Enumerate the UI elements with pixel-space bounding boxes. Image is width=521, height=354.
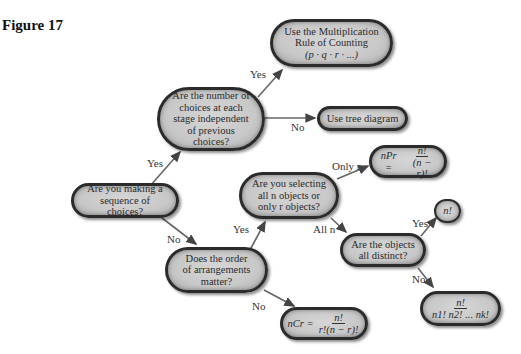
edge-label-distinct-no: No — [412, 273, 425, 285]
start-text: Are you making a sequence of choices? — [74, 183, 176, 218]
selecting-line3: only r objects? — [252, 201, 326, 213]
node-objects-distinct: Are the objects all distinct? — [340, 233, 426, 267]
edge-label-independent-no: No — [291, 121, 304, 133]
edge-label-order-yes: Yes — [233, 223, 249, 235]
multiplication-formula: (p · q · r · ...) — [284, 49, 379, 61]
permutation-numerator: n! — [416, 145, 429, 157]
node-nondistinct-formula: n! n1! n2! ... nk! — [420, 291, 501, 326]
permutation-denominator: (n − r)! — [404, 157, 440, 179]
node-combination-formula: nCr = n! r!(n − r)! — [280, 307, 368, 340]
permutation-lhs: nPr = — [376, 150, 401, 173]
edge-label-distinct-yes: Yes — [412, 217, 428, 229]
node-n-factorial: n! — [434, 199, 461, 223]
combination-lhs: nCr = — [288, 318, 314, 330]
arrow-order-no — [264, 290, 294, 306]
node-permutation-formula: nPr = n! (n − r)! — [369, 145, 447, 178]
combination-denominator: r!(n − r)! — [317, 324, 361, 335]
nondistinct-denominator: n1! n2! ... nk! — [430, 309, 491, 320]
edge-label-start-no: No — [167, 233, 180, 245]
combination-numerator: n! — [332, 312, 345, 324]
edge-label-order-no: No — [252, 300, 265, 312]
node-independent-choices: Are the number of choices at each stage … — [157, 87, 265, 151]
distinct-text: Are the objects all distinct? — [343, 239, 423, 262]
node-selecting-objects: Are you selecting all n objects or only … — [239, 172, 339, 219]
arrow-order-yes — [250, 222, 265, 250]
node-sequence-of-choices: Are you making a sequence of choices? — [71, 183, 179, 218]
multiplication-line2: Rule of Counting — [284, 37, 379, 49]
multiplication-line1: Use the Multiplication — [284, 26, 379, 38]
nondistinct-numerator: n! — [454, 297, 467, 309]
order-text: Does the order of arrangements matter? — [168, 253, 265, 288]
independent-text: Are the number of choices at each stage … — [160, 90, 262, 148]
edge-label-independent-yes: Yes — [250, 68, 266, 80]
edge-label-start-yes: Yes — [147, 157, 163, 169]
selecting-line2: all n objects or — [252, 190, 326, 202]
node-multiplication-rule: Use the Multiplication Rule of Counting … — [270, 19, 393, 67]
selecting-line1: Are you selecting — [252, 178, 326, 190]
edge-label-all-n: All n — [313, 223, 335, 235]
node-tree-diagram: Use tree diagram — [317, 106, 408, 131]
only-r-text: Only r — [332, 160, 360, 172]
tree-text: Use tree diagram — [321, 113, 405, 125]
edge-label-only-r: Only r — [332, 160, 360, 172]
factorial-text: n! — [443, 205, 452, 217]
node-order-matters: Does the order of arrangements matter? — [165, 247, 268, 293]
